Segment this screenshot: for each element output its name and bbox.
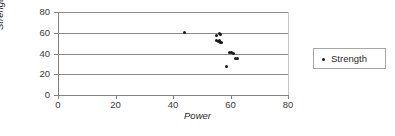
x-tick-label: 40 (158, 100, 188, 110)
gridline (58, 33, 288, 34)
data-point (215, 34, 218, 37)
x-tick-label: 20 (101, 100, 131, 110)
plot-area (58, 12, 288, 95)
legend-marker-icon (322, 58, 325, 61)
y-tick-label: 60 (20, 28, 50, 38)
gridline (58, 74, 288, 75)
y-tick-label: 80 (20, 7, 50, 17)
x-axis-title: Power (0, 110, 395, 121)
x-tick-label: 60 (216, 100, 246, 110)
y-tick (54, 12, 58, 13)
y-tick-label: 20 (20, 69, 50, 79)
gridline (58, 54, 288, 55)
y-axis-title: Strength (0, 0, 5, 30)
data-point (220, 41, 223, 44)
y-tick (54, 74, 58, 75)
y-tick-label: 0 (20, 90, 50, 100)
data-point (183, 31, 186, 34)
y-tick (54, 33, 58, 34)
data-point (225, 65, 228, 68)
plot-frame-right (288, 12, 289, 95)
gridline (58, 12, 288, 13)
data-point (232, 52, 235, 55)
x-tick-label: 80 (273, 100, 303, 110)
legend-item-label: Strength (331, 53, 367, 65)
data-point (236, 57, 239, 60)
x-tick-label: 0 (43, 100, 73, 110)
y-tick (54, 54, 58, 55)
scatter-chart: 020406080 020406080 Strength Power Stren… (0, 0, 395, 136)
y-tick-label: 40 (20, 49, 50, 59)
data-point (219, 33, 222, 36)
legend[interactable]: Strength (313, 48, 386, 69)
